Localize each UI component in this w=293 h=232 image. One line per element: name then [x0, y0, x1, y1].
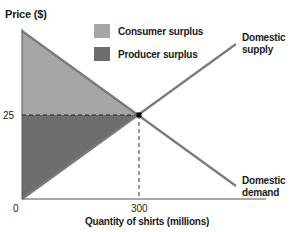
- x-tick-0: 0: [13, 203, 19, 214]
- equilibrium-point: [137, 113, 142, 118]
- legend-swatch-consumer: [94, 24, 110, 38]
- demand-label-line1: Domestic: [242, 175, 285, 186]
- demand-label-line2: demand: [242, 187, 279, 198]
- legend-producer-label: Producer surplus: [118, 49, 198, 60]
- x-axis-label: Quantity of shirts (millions): [85, 216, 209, 227]
- legend-swatch-producer: [94, 47, 110, 61]
- y-tick-25: 25: [3, 110, 14, 121]
- x-tick-300: 300: [131, 203, 148, 214]
- legend-consumer-label: Consumer surplus: [118, 26, 203, 37]
- y-axis-label: Price ($): [5, 9, 47, 20]
- supply-label-line2: supply: [242, 44, 273, 55]
- supply-label-line1: Domestic: [242, 32, 285, 43]
